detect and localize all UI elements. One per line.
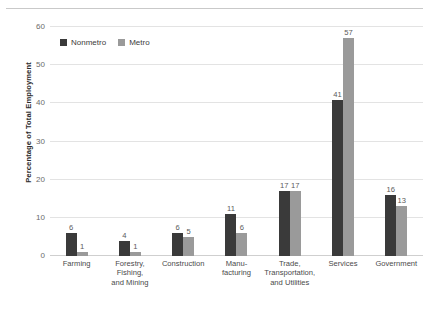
bar-rect bbox=[225, 214, 236, 256]
bar-metro[interactable]: 1 bbox=[77, 27, 88, 256]
bar-value-label: 6 bbox=[176, 223, 180, 232]
bar-rect bbox=[66, 233, 77, 256]
bar-metro[interactable]: 57 bbox=[343, 27, 354, 256]
bar-rect bbox=[385, 195, 396, 256]
bar-rect bbox=[183, 237, 194, 256]
plot-area: 0102030405060 614165116171741571613 bbox=[50, 27, 423, 256]
bar-rect bbox=[119, 241, 130, 256]
x-axis-label: Forestry,Fishing,and Mining bbox=[103, 259, 156, 287]
bar-nonmetro[interactable]: 16 bbox=[385, 27, 396, 256]
x-axis-label: Services bbox=[316, 259, 369, 287]
bar-value-label: 57 bbox=[344, 28, 352, 37]
bar-value-label: 17 bbox=[280, 181, 288, 190]
bar-rect bbox=[343, 38, 354, 256]
bar-group: 1613 bbox=[370, 27, 423, 256]
legend-label: Metro bbox=[129, 38, 149, 47]
bar-rect bbox=[279, 191, 290, 256]
bar-metro[interactable]: 13 bbox=[396, 27, 407, 256]
bar-value-label: 16 bbox=[387, 185, 395, 194]
legend-item-nonmetro[interactable]: Nonmetro bbox=[60, 38, 106, 47]
bar-nonmetro[interactable]: 6 bbox=[66, 27, 77, 256]
bar-group: 41 bbox=[103, 27, 156, 256]
bar-value-label: 11 bbox=[227, 204, 235, 213]
bar-rect bbox=[77, 252, 88, 256]
bar-metro[interactable]: 1 bbox=[130, 27, 141, 256]
y-axis-tick-label: 0 bbox=[41, 251, 45, 260]
bar-groups: 614165116171741571613 bbox=[50, 27, 423, 256]
bar-nonmetro[interactable]: 41 bbox=[332, 27, 343, 256]
x-axis-label: Farming bbox=[50, 259, 103, 287]
bar-group: 1717 bbox=[263, 27, 316, 256]
bar-group: 4157 bbox=[316, 27, 369, 256]
bar-value-label: 41 bbox=[333, 90, 341, 99]
y-axis-tick-label: 20 bbox=[36, 174, 45, 183]
bar-rect bbox=[396, 206, 407, 256]
y-axis-title: Percentage of Total Employment bbox=[24, 33, 33, 213]
bar-rect bbox=[332, 100, 343, 256]
bar-rect bbox=[236, 233, 247, 256]
bar-value-label: 6 bbox=[69, 223, 73, 232]
bar-chart: Percentage of Total Employment 010203040… bbox=[0, 0, 429, 312]
legend-label: Nonmetro bbox=[71, 38, 106, 47]
legend-swatch-icon bbox=[118, 39, 125, 46]
x-axis-label: Manu-facturing bbox=[210, 259, 263, 287]
bar-value-label: 4 bbox=[122, 231, 126, 240]
x-axis-label: Government bbox=[370, 259, 423, 287]
bar-value-label: 13 bbox=[398, 196, 406, 205]
bar-nonmetro[interactable]: 4 bbox=[119, 27, 130, 256]
chart-legend: NonmetroMetro bbox=[60, 38, 150, 47]
bar-value-label: 5 bbox=[187, 227, 191, 236]
y-axis-tick-label: 10 bbox=[36, 212, 45, 221]
x-axis-labels: FarmingForestry,Fishing,and MiningConstr… bbox=[50, 259, 423, 287]
y-axis-tick-label: 60 bbox=[36, 22, 45, 31]
bar-value-label: 6 bbox=[240, 223, 244, 232]
bar-group: 116 bbox=[210, 27, 263, 256]
y-axis-tick-label: 50 bbox=[36, 60, 45, 69]
bar-nonmetro[interactable]: 6 bbox=[172, 27, 183, 256]
bar-metro[interactable]: 5 bbox=[183, 27, 194, 256]
bar-rect bbox=[130, 252, 141, 256]
x-axis-label: Construction bbox=[157, 259, 210, 287]
y-axis-tick-label: 40 bbox=[36, 98, 45, 107]
legend-item-metro[interactable]: Metro bbox=[118, 38, 149, 47]
top-divider-rule bbox=[6, 8, 423, 9]
bar-metro[interactable]: 6 bbox=[236, 27, 247, 256]
bar-group: 61 bbox=[50, 27, 103, 256]
y-axis-tick-label: 30 bbox=[36, 136, 45, 145]
bar-group: 65 bbox=[157, 27, 210, 256]
bar-nonmetro[interactable]: 17 bbox=[279, 27, 290, 256]
bar-rect bbox=[172, 233, 183, 256]
bar-metro[interactable]: 17 bbox=[290, 27, 301, 256]
bar-nonmetro[interactable]: 11 bbox=[225, 27, 236, 256]
legend-swatch-icon bbox=[60, 39, 67, 46]
x-axis-label: Trade,Transportation,and Utilities bbox=[263, 259, 316, 287]
bar-value-label: 17 bbox=[291, 181, 299, 190]
bar-value-label: 1 bbox=[80, 242, 84, 251]
bar-value-label: 1 bbox=[133, 242, 137, 251]
bar-rect bbox=[290, 191, 301, 256]
